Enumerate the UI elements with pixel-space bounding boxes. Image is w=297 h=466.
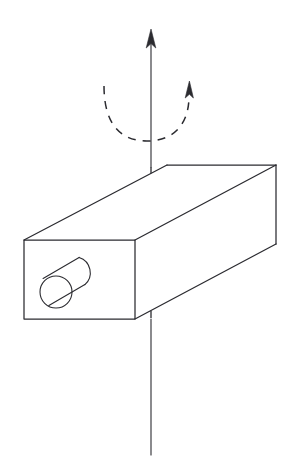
technical-drawing-canvas: [0, 0, 297, 466]
rotation-arrowhead-icon: [185, 81, 193, 98]
rotation-arc-path: [104, 86, 189, 141]
rotation-direction-arc: [104, 81, 193, 141]
figure-root: [0, 0, 297, 466]
